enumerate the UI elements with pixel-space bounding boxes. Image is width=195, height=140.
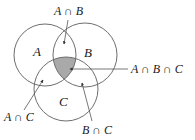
a-and-b-and-c-label: A ∩ B ∩ C — [130, 62, 184, 76]
set-a-label: A — [32, 44, 41, 59]
set-b-label: B — [84, 45, 92, 60]
b-and-c-label: B ∩ C — [82, 123, 113, 137]
a-and-c-arrow — [24, 80, 43, 110]
a-and-c-label: A ∩ C — [3, 110, 35, 124]
a-and-b-arrow — [64, 20, 68, 44]
a-and-b-label: A ∩ B — [53, 4, 84, 18]
venn-diagram: A B C A ∩ B A ∩ B ∩ C A ∩ C B ∩ C — [0, 0, 195, 140]
set-c-label: C — [59, 94, 68, 109]
set-a-circle — [14, 24, 76, 86]
